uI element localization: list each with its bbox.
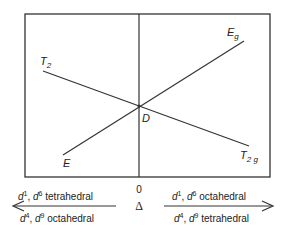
right-top-text: d1, d6 octahedral <box>172 190 246 202</box>
t2-label: T2 <box>40 55 52 70</box>
right-bottom-text: d4, d9 tetrahedral <box>174 212 249 224</box>
crossing-point <box>138 105 141 108</box>
eg-label: Eg <box>227 26 239 41</box>
crossing-label: D <box>142 112 150 124</box>
e-label: E <box>63 157 71 169</box>
diagram-frame <box>25 14 270 177</box>
orgel-diagram: T2 Eg E T2 g D 0 Δ d1, d6 tetrahedral d4… <box>0 0 289 235</box>
left-bottom-text: d4, d9 octahedral <box>20 212 94 224</box>
left-top-text: d1, d6 tetrahedral <box>18 190 93 202</box>
delta-symbol: Δ <box>135 199 143 213</box>
t2-line <box>43 71 249 146</box>
t2g-label: T2 g <box>240 149 258 164</box>
zero-label: 0 <box>136 184 142 195</box>
e-line <box>63 41 244 155</box>
